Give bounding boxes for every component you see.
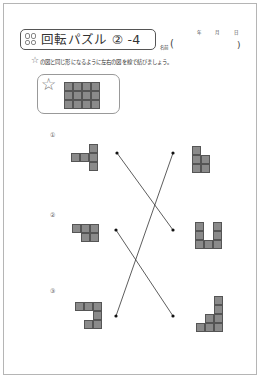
left-dot-2[interactable] (114, 228, 117, 231)
connection-lines (0, 0, 264, 380)
line-3-to-1 (116, 153, 173, 316)
line-1-to-2 (117, 153, 173, 230)
right-dot-2[interactable] (171, 228, 174, 231)
right-dot-1[interactable] (171, 151, 174, 154)
left-dot-3[interactable] (114, 314, 117, 317)
left-dot-1[interactable] (115, 151, 118, 154)
right-dot-3[interactable] (171, 314, 174, 317)
line-2-to-3 (116, 230, 173, 316)
